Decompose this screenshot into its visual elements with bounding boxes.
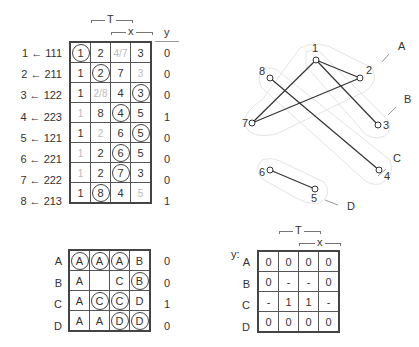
group-label: C — [393, 152, 401, 164]
cell-value: 0 — [265, 276, 271, 288]
cell-value: 0 — [265, 316, 271, 328]
graph-node-1 — [313, 57, 319, 63]
group-leader-line — [382, 54, 389, 62]
br-t-tick-left — [279, 231, 280, 234]
group-label: A — [398, 40, 406, 52]
cell-value: 0 — [325, 276, 331, 288]
cluster-graph: 12345678 ABCD — [0, 0, 419, 240]
circled-value: C — [91, 292, 109, 310]
y-value: 1 — [157, 298, 177, 310]
circled-value: C — [111, 292, 129, 310]
cell-value: B — [136, 255, 143, 267]
grid-cell: 0 — [319, 251, 340, 272]
br-t-tick-right — [320, 231, 321, 234]
br-x-tick-right — [340, 243, 341, 246]
grid-cell: A — [90, 250, 110, 271]
y-value: 0 — [157, 277, 177, 289]
row-label: A — [200, 256, 250, 268]
table-row: ACB — [69, 271, 150, 291]
grid-cell: D — [130, 311, 151, 332]
node-label: 3 — [383, 119, 389, 131]
graph-node-2 — [357, 75, 363, 81]
grid-cell: A — [69, 271, 90, 291]
circled-value: D — [131, 312, 149, 330]
br-t-header: T — [293, 224, 304, 236]
grid-cell: D — [110, 311, 130, 332]
cell-value: - — [267, 296, 271, 308]
graph-edge — [270, 78, 379, 170]
grid-cell: 0 — [279, 251, 299, 272]
grid-cell: C — [90, 291, 110, 311]
grid-cell: - — [258, 292, 279, 312]
row-label: B — [200, 278, 250, 290]
cell-value: 0 — [285, 256, 291, 268]
grid-cell: D — [130, 291, 151, 311]
cell-value: A — [96, 315, 103, 327]
table-row: 0000 — [258, 251, 339, 272]
grid-cell: C — [110, 271, 130, 291]
node-label: 7 — [242, 117, 248, 129]
grid-cell: 0 — [319, 272, 340, 292]
y-value: 0 — [157, 255, 177, 267]
cell-value: A — [76, 315, 83, 327]
grid-cell: - — [319, 292, 340, 312]
cell-value: - — [307, 276, 311, 288]
cell-value: 0 — [325, 316, 331, 328]
br-x-tick-left — [299, 243, 300, 246]
graph-node-6 — [267, 167, 273, 173]
group-leader-line — [325, 200, 338, 205]
grid-cell: A — [90, 311, 110, 332]
hull-D — [257, 159, 327, 204]
grid-cell: C — [110, 291, 130, 311]
circled-value: A — [71, 252, 89, 270]
grid-cell: A — [69, 291, 90, 311]
group-leader-line — [388, 107, 396, 115]
group-transition-grid: AAABACBACCDAADD — [68, 249, 151, 332]
row-label: A — [0, 255, 62, 267]
cell-value: 0 — [285, 316, 291, 328]
graph-node-7 — [249, 120, 255, 126]
grid-cell: A — [69, 311, 90, 332]
table-row: -11- — [258, 292, 339, 312]
table-row: 0000 — [258, 312, 339, 333]
node-label: 6 — [259, 166, 265, 178]
br-x-header: x — [315, 236, 325, 248]
row-label: C — [200, 299, 250, 311]
grid-cell: 0 — [299, 251, 319, 272]
graph-edge — [270, 170, 315, 189]
grid-cell: 1 — [299, 292, 319, 312]
grid-cell: 0 — [258, 312, 279, 333]
grid-cell: 0 — [299, 312, 319, 333]
graph-node-8 — [267, 75, 273, 81]
grid-cell: 0 — [279, 312, 299, 333]
group-label: D — [347, 200, 355, 212]
grid-cell: 0 — [258, 251, 279, 272]
cell-value: 0 — [265, 256, 271, 268]
graph-edge — [316, 60, 360, 78]
row-label: C — [0, 298, 62, 310]
cell-value: 1 — [305, 296, 311, 308]
cell-value: A — [76, 275, 83, 287]
graph-node-3 — [375, 122, 381, 128]
cell-value: 1 — [285, 296, 291, 308]
node-label: 8 — [259, 65, 265, 77]
cell-value: D — [136, 295, 144, 307]
grid-cell: A — [69, 250, 90, 271]
cell-value: 0 — [305, 256, 311, 268]
group-label: B — [404, 93, 411, 105]
grid-cell: B — [130, 250, 151, 271]
circled-value: A — [91, 252, 109, 270]
cell-value: C — [116, 275, 124, 287]
node-label: 4 — [384, 170, 390, 182]
grid-cell — [90, 271, 110, 291]
table-row: 0--0 — [258, 272, 339, 292]
row-label: D — [200, 321, 250, 333]
node-label: 5 — [311, 192, 317, 204]
node-label: 2 — [366, 64, 372, 76]
circled-value: A — [111, 252, 129, 270]
y-value: 0 — [157, 320, 177, 332]
grid-cell: 0 — [258, 272, 279, 292]
cell-value: - — [287, 276, 291, 288]
node-label: 1 — [312, 42, 318, 54]
row-label: B — [0, 277, 62, 289]
